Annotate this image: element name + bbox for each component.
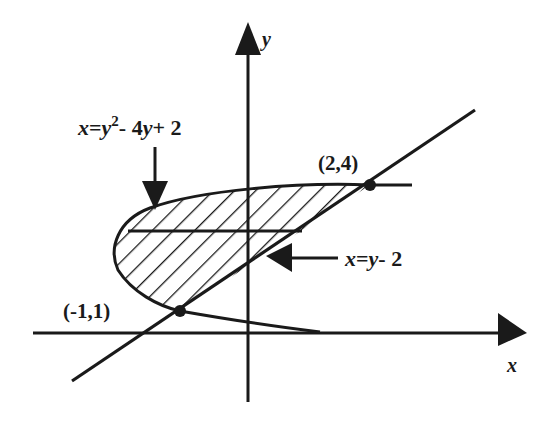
point-2-4 (364, 179, 376, 191)
y-axis-arrow-icon (235, 22, 261, 55)
parabola-equation-label: x=y2- 4y+ 2 (77, 113, 181, 140)
x-axis-arrow-icon (498, 313, 527, 346)
region-diagram: y x x=y2- 4y+ 2 x=y- 2 (2,4) (-1,1) (0, 0, 555, 422)
x-axis-label: x (506, 354, 517, 376)
line-label-arrow (266, 243, 338, 272)
y-axis-label: y (260, 28, 271, 51)
parabola-label-arrow (142, 147, 168, 210)
point-neg1-1 (174, 305, 186, 317)
point-2-4-label: (2,4) (318, 151, 358, 175)
line-equation-label: x=y- 2 (344, 246, 402, 271)
point-neg1-1-label: (-1,1) (63, 299, 110, 323)
